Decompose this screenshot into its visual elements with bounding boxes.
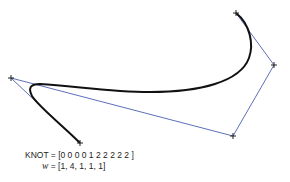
nurbs-curve <box>30 13 251 143</box>
weights-label: w = [1, 4, 1, 1, 1] <box>42 161 105 171</box>
control-polygon <box>11 13 274 143</box>
knot-vector-label: KNOT = [0 0 0 0 1 2 2 2 2 2 ] <box>25 150 134 160</box>
control-point-markers <box>8 10 277 146</box>
weights-symbol: w <box>42 161 48 171</box>
control-point-2 <box>230 133 236 139</box>
control-point-3 <box>271 62 277 68</box>
weights-values: = [1, 4, 1, 1, 1] <box>51 161 106 171</box>
